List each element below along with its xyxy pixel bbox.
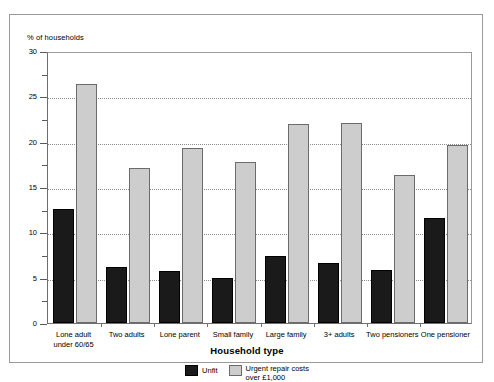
- y-axis-tick: [40, 324, 47, 325]
- y-axis-tick-label: 15: [15, 183, 37, 192]
- legend-swatch-unfit: [185, 365, 198, 376]
- y-axis-minor-tick: [42, 256, 47, 257]
- bar-repair: [341, 123, 362, 323]
- x-axis-tick: [314, 323, 315, 327]
- y-axis-tick-label: 5: [15, 274, 37, 283]
- bar-repair: [394, 175, 415, 323]
- plot-area: [47, 52, 472, 324]
- y-axis-tick-label: 30: [15, 47, 37, 56]
- bar-repair: [182, 148, 203, 323]
- x-axis-tick: [154, 323, 155, 327]
- y-axis-minor-tick: [42, 120, 47, 121]
- y-axis-tick: [40, 52, 47, 53]
- y-axis-tick: [40, 279, 47, 280]
- bar-unfit: [212, 278, 233, 323]
- gridline: [48, 98, 471, 99]
- y-axis-tick-label: 10: [15, 228, 37, 237]
- x-axis-tick: [207, 323, 208, 327]
- bar-repair: [76, 84, 97, 323]
- y-axis-minor-tick: [42, 75, 47, 76]
- x-axis-tick: [261, 323, 262, 327]
- bar-unfit: [106, 267, 127, 323]
- bar-repair: [288, 124, 309, 323]
- bar-unfit: [159, 271, 180, 323]
- x-axis-category-label: One pensioner: [413, 330, 478, 340]
- x-axis-tick: [367, 323, 368, 327]
- y-axis-tick-label: 0: [15, 319, 37, 328]
- y-axis-tick: [40, 97, 47, 98]
- legend-swatch-repair: [229, 365, 242, 376]
- bar-unfit: [424, 218, 445, 323]
- y-axis-tick: [40, 233, 47, 234]
- y-axis-label: % of households: [27, 33, 84, 42]
- bar-repair: [129, 168, 150, 323]
- legend-entry: Unfit: [185, 364, 217, 376]
- x-axis-tick: [101, 323, 102, 327]
- y-axis-tick-label: 25: [15, 92, 37, 101]
- chart-legend: UnfitUrgent repair costs over £1,000: [10, 364, 484, 382]
- legend-label: Urgent repair costs over £1,000: [246, 364, 309, 382]
- y-axis-minor-tick: [42, 165, 47, 166]
- bar-unfit: [318, 263, 339, 323]
- y-axis-tick: [40, 143, 47, 144]
- gridline: [48, 144, 471, 145]
- y-axis-minor-tick: [42, 211, 47, 212]
- legend-label: Unfit: [202, 364, 217, 376]
- bar-unfit: [53, 209, 74, 323]
- x-axis-tick: [420, 323, 421, 327]
- bar-repair: [447, 145, 468, 323]
- y-axis-minor-tick: [42, 301, 47, 302]
- y-axis-tick: [40, 188, 47, 189]
- chart-figure: % of households Household type UnfitUrge…: [9, 14, 483, 363]
- y-axis-tick-label: 20: [15, 138, 37, 147]
- bar-unfit: [265, 256, 286, 323]
- legend-entry: Urgent repair costs over £1,000: [229, 364, 309, 382]
- bar-unfit: [371, 270, 392, 323]
- bar-repair: [235, 162, 256, 323]
